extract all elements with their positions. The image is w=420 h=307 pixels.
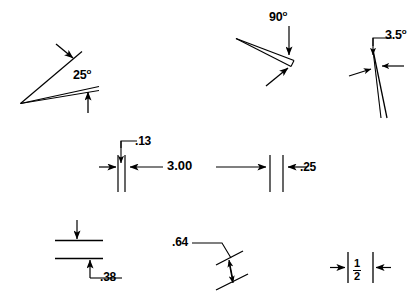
angle-25-upper-arrow [56,44,73,58]
drawing-sheet: 25o 90o 3.5o .13 3.00 .25 .38 .64 1 2 [0,0,420,307]
angle-25-lower-ray-2 [21,91,100,104]
fraction-numerator: 1 [353,258,361,271]
degree-symbol-25: o [87,67,92,76]
dim-13-label: .13 [135,135,151,147]
angle-25-label: 25o [73,68,91,82]
angle-90-upper-ray [236,39,294,61]
fraction-denominator: 2 [353,271,361,283]
dim-300-label: 3.00 [167,159,192,172]
dim-64-lower-arrow [229,262,233,283]
dim-64-label: .64 [172,236,188,248]
degree-symbol-3-5: o [402,27,407,36]
angle-3-5-left-arrow [349,69,371,76]
dim-half-fraction: 1 2 [353,258,361,282]
angle-90-apex-cap [291,61,294,67]
dim-64-leader-line [192,243,231,258]
angle-25-lower-ray [21,87,100,104]
angle-90-lower-ray [236,39,291,67]
dim-38-label: .38 [100,271,116,283]
degree-symbol-90: o [283,9,288,18]
figure-linear-dimension-chain [99,141,307,192]
dim-25-label: .25 [300,161,316,173]
angle-90-lower-arrow [266,68,288,86]
angle-3-5-label: 3.5o [385,28,406,42]
figure-dimension-64 [192,243,248,290]
angle-90-label: 90o [269,10,287,24]
figure-angle-3-5 [349,38,404,118]
figure-angle-90 [236,26,294,86]
